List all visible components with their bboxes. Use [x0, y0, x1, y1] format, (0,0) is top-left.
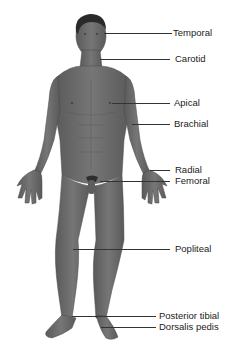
label-popliteal: Popliteal: [175, 243, 211, 254]
right-nipple: [71, 102, 73, 104]
leader-line-radial: [150, 170, 170, 171]
leader-line-dorsalis-pedis: [101, 327, 156, 328]
label-carotid: Carotid: [175, 53, 206, 64]
label-brachial: Brachial: [174, 118, 208, 129]
right-arm: [34, 76, 60, 175]
leader-line-posterior-tibial: [72, 316, 156, 317]
genitals: [88, 180, 95, 194]
right-leg: [55, 175, 90, 318]
leader-line-femoral: [100, 181, 170, 182]
left-nipple: [109, 102, 111, 104]
label-posterior-tibial: Posterior tibial: [159, 310, 219, 321]
neck: [80, 50, 102, 68]
left-arm: [124, 76, 150, 175]
leader-line-carotid: [100, 59, 170, 60]
leader-line-popliteal: [73, 249, 170, 250]
right-eye: [84, 33, 86, 35]
label-femoral: Femoral: [175, 175, 210, 186]
label-temporal: Temporal: [173, 27, 212, 38]
leader-line-temporal: [104, 33, 172, 34]
left-hand: [142, 170, 167, 204]
leader-line-apical: [112, 103, 170, 104]
left-leg: [93, 175, 124, 318]
right-foot: [46, 315, 76, 338]
label-dorsalis-pedis: Dorsalis pedis: [159, 321, 219, 332]
label-radial: Radial: [175, 164, 202, 175]
leader-line-brachial: [132, 124, 170, 125]
label-apical: Apical: [174, 97, 200, 108]
left-eye: [96, 33, 98, 35]
right-hand: [17, 170, 42, 204]
